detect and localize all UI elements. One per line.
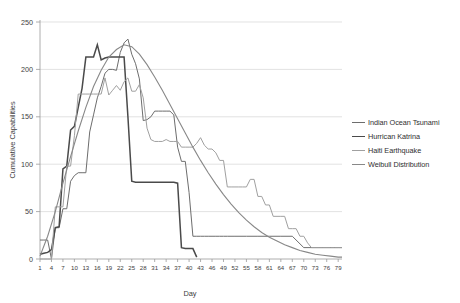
y-tick-label: 0	[29, 255, 33, 264]
x-tick-label: 49	[220, 264, 227, 271]
x-tick-label: 37	[174, 264, 181, 271]
y-axis	[36, 20, 40, 259]
legend-label: Weibull Distribution	[368, 160, 429, 169]
x-tick-label: 25	[128, 264, 135, 271]
series-lines	[40, 39, 342, 259]
x-tick-label: 19	[105, 264, 112, 271]
line-chart-svg: 0501001502002501471013161922252831343740…	[0, 0, 348, 303]
series-line-2	[40, 78, 342, 259]
x-tick-label: 64	[277, 264, 284, 271]
legend-swatch-icon	[352, 150, 365, 151]
legend-item-1[interactable]: Hurrican Katrina	[352, 129, 460, 143]
chart-legend: Indian Ocean TsunamiHurrican KatrinaHait…	[352, 115, 460, 171]
x-tick-label: 1	[38, 264, 42, 271]
x-axis	[40, 259, 342, 262]
x-tick-label: 22	[117, 264, 124, 271]
x-tick-label: 4	[50, 264, 54, 271]
x-tick-label: 16	[94, 264, 101, 271]
x-tick-label: 28	[140, 264, 147, 271]
legend-item-3[interactable]: Weibull Distribution	[352, 157, 460, 171]
legend-item-0[interactable]: Indian Ocean Tsunami	[352, 115, 460, 129]
x-axis-title: Day	[183, 289, 196, 298]
legend-swatch-icon	[352, 122, 365, 123]
legend-item-2[interactable]: Haiti Earthquake	[352, 143, 460, 157]
x-tick-label: 46	[209, 264, 216, 271]
legend-label: Indian Ocean Tsunami	[368, 118, 439, 127]
chart-container: 0501001502002501471013161922252831343740…	[0, 0, 460, 303]
x-tick-label: 40	[186, 264, 193, 271]
x-tick-label: 73	[312, 264, 319, 271]
x-tick-label: 58	[255, 264, 262, 271]
x-tick-label: 67	[289, 264, 296, 271]
series-line-0	[40, 39, 342, 259]
x-tick-label: 43	[197, 264, 204, 271]
legend-swatch-icon	[352, 164, 365, 165]
legend-swatch-icon	[352, 136, 365, 137]
x-tick-label: 52	[232, 264, 239, 271]
y-tick-label: 250	[21, 18, 33, 27]
y-tick-label: 100	[21, 160, 33, 169]
x-tick-label: 55	[243, 264, 250, 271]
x-tick-label: 76	[323, 264, 330, 271]
y-tick-label: 200	[21, 65, 33, 74]
y-tick-label: 150	[21, 112, 33, 121]
legend-label: Haiti Earthquake	[368, 146, 421, 155]
y-axis-title: Cumulative Capabilities	[8, 101, 17, 179]
x-tick-label: 13	[82, 264, 89, 271]
x-tick-label: 61	[266, 264, 273, 271]
x-tick-label: 10	[71, 264, 78, 271]
grid-lines	[40, 22, 342, 212]
x-tick-label: 79	[335, 264, 342, 271]
plot-area: 0501001502002501471013161922252831343740…	[0, 0, 348, 303]
x-tick-label: 31	[151, 264, 158, 271]
series-line-1	[40, 45, 197, 257]
x-tick-label: 70	[300, 264, 307, 271]
y-tick-label: 50	[25, 207, 33, 216]
series-line-3	[40, 45, 342, 257]
x-tick-label: 34	[163, 264, 170, 271]
x-tick-label: 7	[61, 264, 65, 271]
legend-label: Hurrican Katrina	[368, 132, 420, 141]
